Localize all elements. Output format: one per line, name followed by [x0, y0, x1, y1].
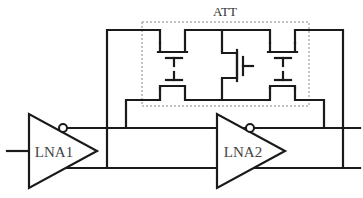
circuit-diagram: ATT LNA1	[0, 0, 363, 198]
lna2-amplifier: LNA2	[217, 114, 285, 188]
lna1-inverting-bubble	[59, 124, 67, 132]
lna2-inverting-bubble	[246, 124, 254, 132]
att-right-switch-pair	[268, 43, 297, 88]
left-inner-wire	[126, 88, 160, 128]
att-label: ATT	[213, 4, 237, 19]
lna1-label: LNA1	[35, 144, 73, 160]
lna1-amplifier: LNA1	[29, 114, 97, 188]
right-inner-wire	[295, 88, 324, 128]
lna2-label: LNA2	[224, 144, 262, 160]
att-shunt-switch	[222, 30, 253, 100]
